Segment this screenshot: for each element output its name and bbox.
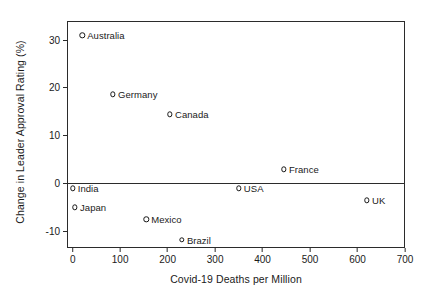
x-axis-tick-label: 700 [397,254,414,265]
data-point-marker[interactable] [79,33,84,38]
x-axis-tick-mark [167,248,168,252]
data-point-marker[interactable] [72,205,77,210]
x-axis-tick: 0 [70,248,76,265]
plot-area: -100102030 0100200300400500600700 Austra… [67,21,405,248]
y-axis-tick-label: -10 [46,226,60,237]
data-point-label: Brazil [187,234,211,245]
data-point-marker[interactable] [144,217,149,222]
data-point-marker[interactable] [364,198,369,203]
y-axis-tick-label: 20 [49,82,60,93]
x-axis-tick-label: 600 [349,254,366,265]
x-axis-title: Covid-19 Deaths per Million [67,273,405,285]
data-point-marker[interactable] [167,111,172,116]
y-axis-tick: 10 [49,130,67,142]
x-axis-tick-label: 500 [302,254,319,265]
x-axis-tick: 600 [349,248,366,265]
data-point-marker[interactable] [70,186,75,191]
data-point-label: USA [244,183,264,194]
x-axis-tick-mark [215,248,216,252]
zero-reference-line [67,183,405,184]
y-axis-tick: -10 [46,225,67,237]
y-axis-tick-mark [63,231,67,232]
data-point-marker[interactable] [281,166,286,171]
data-point-label: Japan [80,202,106,213]
x-axis-tick: 500 [302,248,319,265]
data-point-label: Canada [175,109,209,120]
x-axis-tick: 400 [254,248,271,265]
x-axis-tick: 100 [112,248,129,265]
y-axis-tick-label: 10 [49,130,60,141]
y-axis-tick-label: 30 [49,35,60,46]
y-axis-tick-mark [63,87,67,88]
data-point-marker[interactable] [179,237,184,242]
y-axis-tick: 0 [54,177,67,189]
data-point-label: India [78,183,99,194]
data-point-label: Australia [87,30,124,41]
x-axis-tick-label: 400 [254,254,271,265]
data-point-label: UK [372,195,385,206]
x-axis-tick-mark [405,248,406,252]
data-point-label: France [289,164,319,175]
x-axis-tick-label: 200 [159,254,176,265]
x-axis-tick-mark [310,248,311,252]
x-axis-tick-mark [120,248,121,252]
data-point-marker[interactable] [236,186,241,191]
data-point-label: Mexico [151,214,181,225]
x-axis-tick-mark [72,248,73,252]
x-axis-tick: 200 [159,248,176,265]
chart-page: Change in Leader Approval Rating (%) -10… [0,0,424,298]
x-axis-tick-label: 0 [70,254,76,265]
y-axis-tick-mark [63,135,67,136]
x-axis-tick-mark [262,248,263,252]
x-axis-tick-mark [357,248,358,252]
x-axis-tick: 300 [207,248,224,265]
y-axis-tick-mark [63,40,67,41]
x-axis-tick-label: 100 [112,254,129,265]
data-point-marker[interactable] [110,91,115,96]
x-axis-tick-label: 300 [207,254,224,265]
y-axis-tick-mark [63,183,67,184]
x-axis-tick: 700 [397,248,414,265]
y-axis-tick: 20 [49,82,67,94]
y-axis-tick-label: 0 [54,178,60,189]
y-axis-title: Change in Leader Approval Rating (%) [14,12,30,252]
y-axis-tick: 30 [49,34,67,46]
data-point-label: Germany [118,89,157,100]
